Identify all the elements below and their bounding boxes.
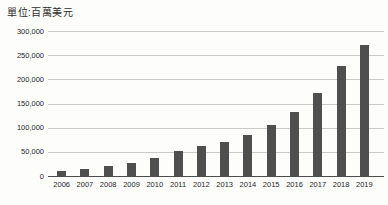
bar-2009: [127, 163, 136, 176]
y-axis-tick-label: 100,000: [0, 123, 44, 132]
bar-2015: [267, 125, 276, 176]
x-axis-tick-label: 2013: [213, 180, 237, 189]
bar-2010: [150, 158, 159, 176]
gridline: [48, 104, 384, 105]
x-axis-tick-label: 2008: [96, 180, 120, 189]
bar-2017: [313, 93, 322, 176]
x-axis-tick-label: 2014: [236, 180, 260, 189]
gridline: [48, 152, 384, 153]
x-axis-tick-label: 2011: [166, 180, 190, 189]
bar-2013: [220, 142, 229, 176]
bar-2019: [360, 45, 369, 176]
gridline: [48, 79, 384, 80]
y-axis-tick-label: 50,000: [0, 147, 44, 156]
y-axis-tick-label: 200,000: [0, 75, 44, 84]
bar-2007: [80, 169, 89, 176]
x-axis-tick-label: 2012: [189, 180, 213, 189]
x-axis-tick-label: 2009: [120, 180, 144, 189]
x-axis-line: [48, 176, 384, 177]
x-axis-tick-label: 2015: [259, 180, 283, 189]
gridline: [48, 55, 384, 56]
x-axis-tick-label: 2016: [283, 180, 307, 189]
gridline: [48, 128, 384, 129]
x-axis-tick-label: 2007: [73, 180, 97, 189]
y-axis-tick-label: 0: [0, 172, 44, 181]
y-axis-tick-label: 250,000: [0, 51, 44, 60]
bar-2011: [174, 151, 183, 176]
bar-2018: [337, 66, 346, 176]
x-axis-tick-label: 2017: [306, 180, 330, 189]
x-axis-tick-label: 2006: [50, 180, 74, 189]
bar-2014: [243, 135, 252, 176]
bar-2016: [290, 112, 299, 176]
y-axis-tick-label: 300,000: [0, 27, 44, 36]
chart-page: 單位:百萬美元 050,000100,000150,000200,000250,…: [0, 0, 388, 205]
bar-2006: [57, 171, 66, 176]
x-axis-tick-label: 2018: [329, 180, 353, 189]
x-axis-tick-label: 2010: [143, 180, 167, 189]
plot-area: 050,000100,000150,000200,000250,000300,0…: [0, 0, 388, 205]
bar-2012: [197, 146, 206, 176]
bar-2008: [104, 166, 113, 176]
x-axis-tick-label: 2019: [352, 180, 376, 189]
gridline: [48, 31, 384, 32]
y-axis-tick-label: 150,000: [0, 99, 44, 108]
